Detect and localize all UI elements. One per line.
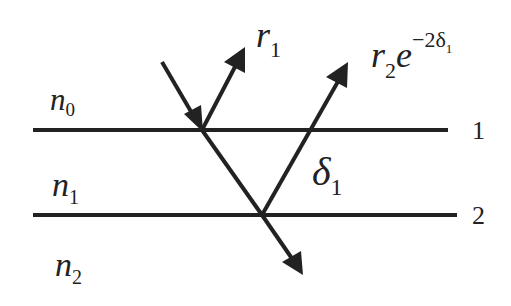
incident-ray xyxy=(162,62,193,115)
label-interface-1: 1 xyxy=(472,116,485,145)
label-n2: n2 xyxy=(55,246,82,288)
refracted-ray xyxy=(202,130,262,215)
label-interface-2: 2 xyxy=(472,201,485,230)
reflected-ray-r1 xyxy=(202,63,237,130)
transmitted-arrowhead-icon xyxy=(282,251,303,275)
label-delta1: δ1 xyxy=(312,149,343,200)
label-r1: r1 xyxy=(256,15,281,62)
label-n0: n0 xyxy=(50,82,75,120)
label-n1: n1 xyxy=(52,166,79,208)
incident-arrowhead-icon xyxy=(184,105,203,132)
reflected-ray-r2 xyxy=(262,78,340,215)
thin-film-diagram: n0 n1 n2 1 2 r1 r2e−2δ1 δ1 xyxy=(0,0,511,306)
label-r2-phase: r2e−2δ1 xyxy=(371,27,452,83)
transmitted-ray xyxy=(262,215,293,260)
